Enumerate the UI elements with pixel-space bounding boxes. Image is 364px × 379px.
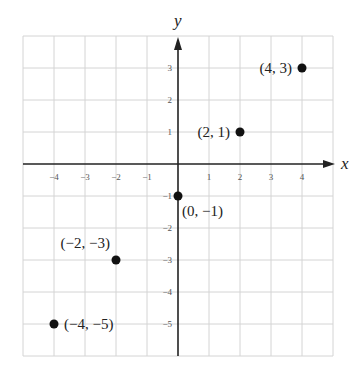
x-tick-label: 2 [238,172,243,182]
y-tick-label: −3 [162,255,172,265]
point-label: (−2, −3) [61,235,110,252]
data-point [112,256,121,265]
x-tick-label: −1 [142,172,152,182]
y-tick-label: 1 [168,127,173,137]
x-tick-label: −3 [80,172,90,182]
y-tick-label: −1 [162,191,172,201]
data-point [174,192,183,201]
point-label: (−4, −5) [64,316,113,333]
y-tick-label: 3 [168,63,173,73]
x-tick-label: 4 [300,172,305,182]
x-axis-label: x [340,154,349,173]
y-tick-label: −2 [162,223,172,233]
x-tick-label: −2 [111,172,121,182]
x-tick-label: 3 [269,172,274,182]
y-axis-label: y [172,11,182,30]
x-tick-label: −4 [49,172,59,182]
y-axis-arrow-icon [174,37,182,50]
point-label: (4, 3) [260,60,293,77]
data-point [298,64,307,73]
data-point [236,128,245,137]
x-tick-label: 1 [207,172,212,182]
point-label: (2, 1) [198,124,231,141]
y-tick-label: −5 [162,319,172,329]
y-tick-label: 2 [168,95,173,105]
point-label: (0, −1) [182,203,223,220]
y-tick-label: −4 [162,287,172,297]
coordinate-plane: −4−3−2−11234321−1−2−3−4−5 (4, 3)(2, 1)(0… [0,0,364,379]
data-point [50,320,59,329]
